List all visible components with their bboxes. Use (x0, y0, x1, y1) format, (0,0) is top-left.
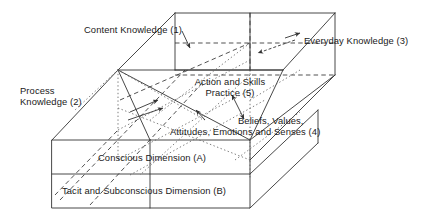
label-beliefs-line1: Beliefs, Values, (238, 115, 304, 127)
arrow-everyday-knowledge (258, 40, 295, 53)
dashed-left-long-diagonal-a (60, 70, 185, 200)
edge-right-slab-bottom (250, 143, 318, 208)
dotted-inner-diagonal-a (118, 90, 250, 160)
arrow-everyday-knowledge-2 (285, 33, 300, 38)
label-action-skills-line2: Practice (5) (170, 87, 290, 99)
label-tacit-dimension: Tacit and Subconscious Dimension (B) (62, 185, 226, 197)
dashed-hidden-edges (55, 13, 335, 205)
label-everyday-knowledge: Everyday Knowledge (3) (304, 35, 408, 47)
label-process-knowledge-line1: Process (20, 85, 55, 97)
label-process-knowledge-line2: Knowledge (2) (20, 96, 82, 108)
diagram-canvas: Content Knowledge (1) Everyday Knowledge… (0, 0, 426, 218)
outer-box-solid-edges (52, 13, 335, 208)
label-content-knowledge: Content Knowledge (1) (84, 24, 182, 36)
label-beliefs-line2: Attitudes, Emotions and Senses (4) (170, 126, 320, 138)
label-conscious-dimension: Conscious Dimension (A) (98, 152, 206, 164)
arrow-content-knowledge (182, 31, 190, 48)
edge-left-vertex-to-back-top-left (118, 13, 175, 70)
label-action-skills-line1: Action and Skills (170, 76, 290, 88)
